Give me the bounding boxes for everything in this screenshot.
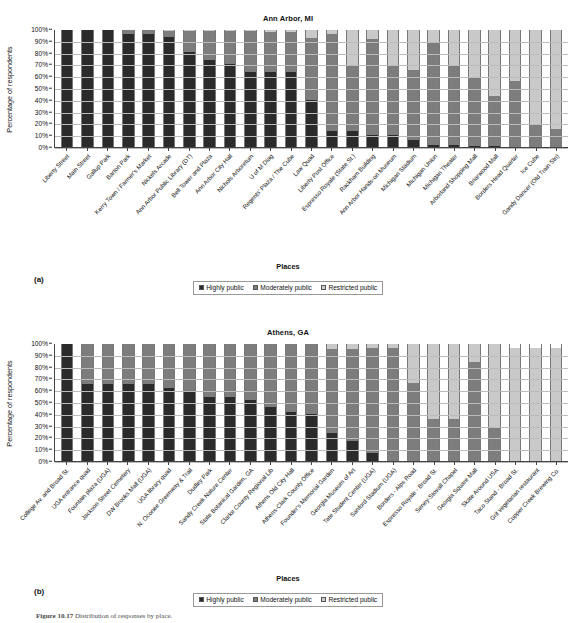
bar-segment bbox=[510, 30, 521, 81]
bar-segment bbox=[327, 131, 338, 147]
y-tick-label: 40% bbox=[35, 98, 48, 105]
gridline bbox=[55, 403, 568, 404]
bar-segment bbox=[428, 145, 439, 147]
y-tick-label: 60% bbox=[35, 388, 48, 395]
legend-swatch-icon bbox=[253, 597, 258, 602]
gridline bbox=[55, 54, 568, 55]
bar-segment bbox=[225, 31, 236, 64]
y-tick-label: 70% bbox=[35, 62, 48, 69]
gridline bbox=[55, 368, 568, 369]
bar-segment bbox=[530, 348, 541, 461]
bar-segment bbox=[388, 348, 399, 461]
legend-label: Moderately public bbox=[260, 284, 312, 292]
x-axis-labels-b: College Av. and Broad St.UGA entrance qu… bbox=[54, 466, 568, 570]
y-axis-ticks-b: 100%90%80%70%60%50%40%30%20%10%0% bbox=[16, 344, 52, 462]
figure-caption-text: Distribution of responses by place. bbox=[75, 612, 172, 620]
bar-segment bbox=[367, 30, 378, 39]
bar-segment bbox=[286, 412, 297, 461]
bar-segment bbox=[510, 348, 521, 461]
legend-label: Restricted public bbox=[328, 596, 377, 604]
y-tick-label: 10% bbox=[35, 133, 48, 140]
bar-segment bbox=[225, 397, 236, 461]
bar-segment bbox=[225, 344, 236, 397]
gridline bbox=[55, 136, 568, 137]
bar-segment bbox=[103, 344, 114, 384]
bar-segment bbox=[347, 65, 358, 131]
bar-segment bbox=[245, 400, 256, 461]
bar-segment bbox=[164, 344, 175, 388]
bar-segment bbox=[551, 30, 562, 129]
bar-segment bbox=[408, 30, 419, 70]
panel-letter-a: (a) bbox=[34, 275, 44, 284]
x-label-slot: Gandy Dancer (Old Train Stn) bbox=[546, 152, 566, 256]
legend-item[interactable]: Restricted public bbox=[321, 596, 377, 604]
bar-segment bbox=[347, 30, 358, 65]
bar-segment bbox=[347, 131, 358, 147]
y-tick-label: 70% bbox=[35, 376, 48, 383]
y-axis-label-b: Percentage of respondents bbox=[2, 344, 16, 462]
bar-segment bbox=[388, 30, 399, 66]
gridline bbox=[55, 379, 568, 380]
x-axis-labels-a: Liberty StreetMain StreetGallup ParkBart… bbox=[54, 152, 568, 256]
x-axis-title-a: Places bbox=[0, 262, 576, 271]
bar-segment bbox=[551, 129, 562, 147]
y-tick-label: 50% bbox=[35, 400, 48, 407]
y-tick-label: 30% bbox=[35, 109, 48, 116]
bar-segment bbox=[306, 30, 317, 38]
y-tick-label: 10% bbox=[35, 447, 48, 454]
bar-segment bbox=[327, 433, 338, 461]
bar-segment bbox=[367, 348, 378, 453]
bar-segment bbox=[143, 344, 154, 384]
gridline bbox=[55, 450, 568, 451]
figure-caption-label: Figure 10.17 bbox=[36, 612, 73, 620]
bar-segment bbox=[449, 30, 460, 66]
legend-swatch-icon bbox=[321, 285, 326, 290]
y-tick-label: 0% bbox=[38, 459, 48, 466]
y-axis-ticks-a: 100%90%80%70%60%50%40%30%20%10%0% bbox=[16, 30, 52, 148]
y-tick-label: 100% bbox=[31, 27, 48, 34]
panel-athens: Athens, GA Percentage of respondents 100… bbox=[0, 318, 576, 608]
y-tick-label: 60% bbox=[35, 74, 48, 81]
figure-caption: Figure 10.17 Distribution of responses b… bbox=[36, 612, 556, 622]
legend-item[interactable]: Highly public bbox=[199, 284, 244, 292]
legend-swatch-icon bbox=[321, 597, 326, 602]
bar-segment bbox=[408, 140, 419, 147]
bar-segment bbox=[489, 427, 500, 461]
bar-segment bbox=[551, 348, 562, 461]
legend-item[interactable]: Moderately public bbox=[253, 284, 312, 292]
y-tick-label: 20% bbox=[35, 121, 48, 128]
legend-swatch-icon bbox=[199, 597, 204, 602]
x-axis-title-b: Places bbox=[0, 574, 576, 583]
gridline bbox=[55, 391, 568, 392]
bar-segment bbox=[469, 344, 480, 362]
chart-title-b: Athens, GA bbox=[0, 318, 576, 337]
bar-segment bbox=[204, 60, 215, 147]
bar-segment bbox=[123, 344, 134, 384]
panel-letter-b: (b) bbox=[34, 587, 44, 596]
bar-segment bbox=[367, 453, 378, 461]
gridline bbox=[55, 101, 568, 102]
gridline bbox=[55, 89, 568, 90]
gridline bbox=[55, 438, 568, 439]
bar-segment bbox=[489, 146, 500, 147]
bar-segment bbox=[449, 419, 460, 461]
legend-item[interactable]: Highly public bbox=[199, 596, 244, 604]
bar-segment bbox=[123, 34, 134, 147]
bar-segment bbox=[489, 30, 500, 96]
legend-swatch-icon bbox=[253, 285, 258, 290]
legend-item[interactable]: Restricted public bbox=[321, 284, 377, 292]
bar-segment bbox=[286, 344, 297, 412]
gridline bbox=[55, 113, 568, 114]
legend-item[interactable]: Moderately public bbox=[253, 596, 312, 604]
plot-area-a bbox=[54, 30, 568, 148]
y-tick-label: 40% bbox=[35, 412, 48, 419]
panel-ann-arbor: Ann Arbor, MI Percentage of respondents … bbox=[0, 0, 576, 305]
y-tick-label: 30% bbox=[35, 423, 48, 430]
bar-segment bbox=[469, 362, 480, 461]
bar-segment bbox=[143, 34, 154, 147]
y-tick-label: 80% bbox=[35, 50, 48, 57]
x-axis-category-label: Liberty Street bbox=[41, 153, 70, 184]
y-tick-label: 80% bbox=[35, 364, 48, 371]
bar-segment bbox=[306, 38, 317, 100]
gridline bbox=[55, 356, 568, 357]
